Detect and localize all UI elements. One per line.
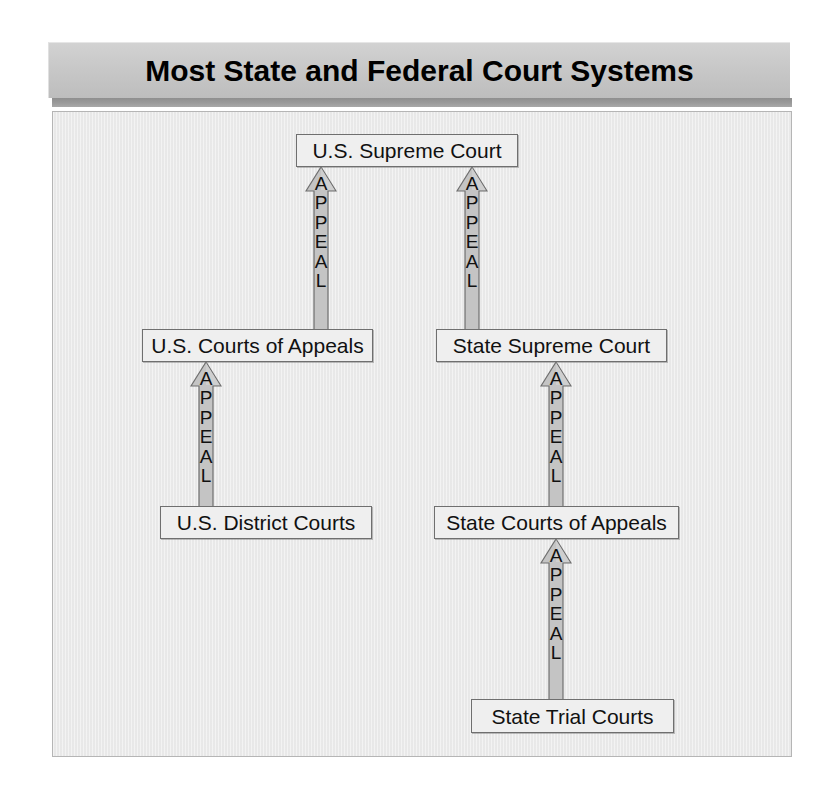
- node-label: U.S. Courts of Appeals: [151, 335, 363, 356]
- node-label: State Courts of Appeals: [446, 512, 667, 533]
- court-hierarchy-diagram: A P P E A L A P P E A L: [0, 0, 840, 792]
- diagram-screenshot: Most State and Federal Court Systems A P…: [0, 0, 840, 792]
- node-us-supreme-court: U.S. Supreme Court: [296, 134, 518, 167]
- appeal-arrow-state-appeals-to-state-supreme: A P P E A L: [540, 361, 572, 508]
- node-label: U.S. Supreme Court: [312, 140, 501, 161]
- node-state-trial-courts: State Trial Courts: [471, 699, 674, 733]
- node-state-courts-of-appeals: State Courts of Appeals: [434, 506, 679, 539]
- appeal-arrow-state-supreme-to-us-supreme: A P P E A L: [456, 166, 488, 332]
- node-label: State Supreme Court: [453, 335, 650, 356]
- node-label: State Trial Courts: [491, 706, 653, 727]
- node-us-courts-of-appeals: U.S. Courts of Appeals: [142, 329, 373, 362]
- node-state-supreme-court: State Supreme Court: [436, 329, 667, 362]
- node-label: U.S. District Courts: [177, 512, 356, 533]
- appeal-arrow-us-appeals-to-us-supreme: A P P E A L: [305, 166, 337, 332]
- appeal-arrow-us-district-to-us-appeals: A P P E A L: [190, 361, 222, 508]
- node-us-district-courts: U.S. District Courts: [160, 506, 372, 539]
- appeal-arrow-state-trial-to-state-appeals: A P P E A L: [540, 538, 572, 701]
